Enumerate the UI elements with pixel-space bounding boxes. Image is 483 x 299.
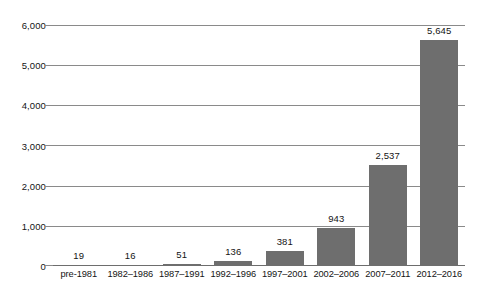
y-axis-tick-label: 4,000 (0, 100, 46, 111)
y-tick-mark (45, 226, 53, 227)
plot-area: 19 16 51 136 381 943 (53, 25, 465, 266)
bar-value-label: 2,537 (376, 150, 400, 161)
y-axis-labels: 6,000 5,000 4,000 3,000 2,000 1,000 0 (0, 25, 46, 266)
y-axis-tick-label: 0 (0, 261, 46, 272)
y-tick-mark (45, 65, 53, 66)
x-axis-tick-label: 1987–1991 (156, 269, 208, 279)
bar (163, 264, 201, 266)
bar-value-label: 19 (73, 250, 84, 261)
x-axis-tick-label: 1997–2001 (259, 269, 311, 279)
y-tick-mark (45, 186, 53, 187)
y-tick-mark (45, 145, 53, 146)
bar-value-label: 51 (176, 249, 187, 260)
bar-slot: 16 (105, 25, 157, 266)
y-tick-mark (45, 25, 53, 26)
bar-series: 19 16 51 136 381 943 (53, 25, 465, 266)
x-axis-tick-label: 1982–1986 (105, 269, 157, 279)
bar-value-label: 136 (225, 246, 241, 257)
bar-slot: 19 (53, 25, 105, 266)
x-axis-tick-label: 2002–2006 (311, 269, 363, 279)
bar-slot: 136 (208, 25, 260, 266)
y-axis-tick-label: 5,000 (0, 60, 46, 71)
bar-value-label: 943 (328, 213, 344, 224)
y-axis-tick-label: 1,000 (0, 220, 46, 231)
y-axis-tick-label: 6,000 (0, 20, 46, 31)
bar (420, 40, 458, 266)
bar-slot: 381 (259, 25, 311, 266)
bar-chart: 6,000 5,000 4,000 3,000 2,000 1,000 0 19… (0, 0, 483, 299)
x-axis-tick-label: 2012–2016 (414, 269, 466, 279)
bar-value-label: 16 (125, 250, 136, 261)
bar (266, 251, 304, 266)
y-axis-tick-label: 3,000 (0, 140, 46, 151)
bar (60, 265, 98, 266)
bar (214, 261, 252, 266)
bar-slot: 2,537 (362, 25, 414, 266)
bar (317, 228, 355, 266)
bar-value-label: 5,645 (427, 25, 451, 36)
y-axis-tick-label: 2,000 (0, 180, 46, 191)
bar-slot: 5,645 (414, 25, 466, 266)
bar (369, 165, 407, 266)
bar-slot: 943 (311, 25, 363, 266)
bar-slot: 51 (156, 25, 208, 266)
x-axis-tick-label: 1992–1996 (208, 269, 260, 279)
bar (111, 265, 149, 266)
x-axis-labels: pre-1981 1982–1986 1987–1991 1992–1996 1… (53, 269, 465, 279)
y-tick-mark (45, 265, 53, 266)
x-axis-tick-label: 2007–2011 (362, 269, 414, 279)
x-axis-tick-label: pre-1981 (53, 269, 105, 279)
y-tick-mark (45, 105, 53, 106)
bar-value-label: 381 (277, 236, 293, 247)
